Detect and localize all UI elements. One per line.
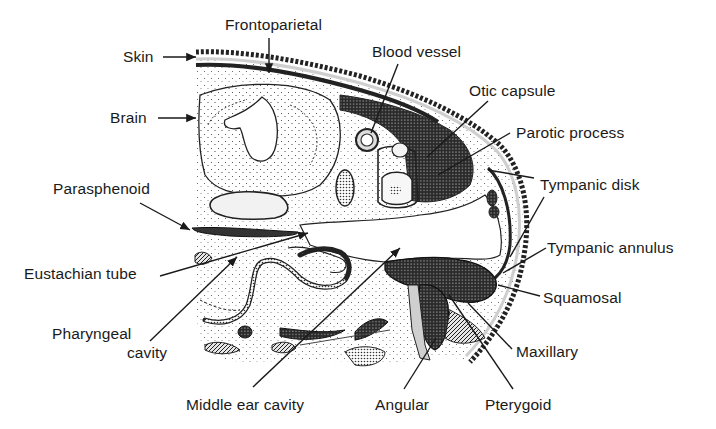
label-tympanic-disk: Tympanic disk [540,177,640,193]
label-parotic-process: Parotic process [516,125,624,141]
label-tympanic-annulus: Tympanic annulus [547,240,674,256]
label-parasphenoid: Parasphenoid [53,181,150,197]
label-pharyngeal-cavity-2: cavity [127,345,167,361]
label-angular: Angular [375,397,429,413]
label-otic-capsule: Otic capsule [469,83,556,99]
small-cartilage [336,170,354,206]
anatomy-drawing [0,0,716,429]
label-pharyngeal-cavity-1: Pharyngeal [52,326,131,342]
label-blood-vessel: Blood vessel [372,44,461,60]
label-skin: Skin [123,49,154,65]
label-frontoparietal: Frontoparietal [225,17,322,33]
label-squamosal: Squamosal [543,290,621,306]
label-pterygoid: Pterygoid [485,397,551,413]
label-brain: Brain [110,110,147,126]
frog-middle-ear-diagram: FrontoparietalSkinBlood vesselOtic capsu… [0,0,716,429]
label-middle-ear-cavity: Middle ear cavity [186,397,304,413]
label-eustachian-tube: Eustachian tube [24,266,137,282]
label-maxillary: Maxillary [516,344,578,360]
lower-brain-lobe [210,192,288,219]
leader-parasphenoid [140,203,190,230]
